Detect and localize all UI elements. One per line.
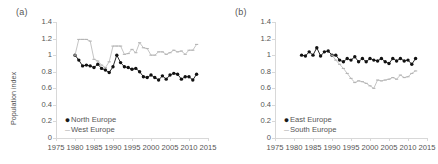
legend-label: South Europe (290, 125, 336, 135)
x-tick (189, 138, 190, 141)
x-tick (151, 138, 152, 141)
data-point (81, 64, 84, 67)
data-point (184, 54, 187, 55)
x-tick-label: 1990 (324, 144, 341, 152)
x-tick (56, 138, 57, 141)
x-tick-label: 2010 (181, 144, 198, 152)
data-point (195, 44, 198, 45)
data-point (123, 54, 126, 55)
data-point (100, 65, 103, 66)
y-tick (53, 88, 56, 89)
data-point (334, 53, 337, 56)
data-point (349, 58, 352, 61)
data-point (157, 51, 160, 52)
y-tick-label: 1.2 (260, 35, 271, 43)
x-tick-label: 2010 (400, 144, 417, 152)
data-point (342, 60, 345, 63)
x-tick (427, 138, 428, 141)
data-point (165, 77, 168, 80)
legend-item-east-europe: ●East Europe (283, 110, 336, 120)
data-point (410, 63, 413, 66)
x-tick-label: 1995 (343, 144, 360, 152)
y-tick-label: 0.6 (41, 84, 52, 92)
data-point (146, 48, 149, 49)
data-point (111, 46, 114, 47)
data-point (191, 78, 194, 81)
y-tick-label: 1.4 (41, 18, 52, 26)
x-tick (113, 138, 114, 141)
data-point (108, 61, 111, 62)
data-point (361, 57, 364, 60)
data-point (168, 73, 171, 76)
data-point (180, 77, 183, 80)
legend-item-south-europe: –South Europe (283, 120, 336, 130)
legend-label: West Europe (71, 125, 115, 135)
data-point (85, 39, 88, 40)
data-point (308, 50, 311, 53)
data-point (89, 64, 92, 67)
data-point (380, 80, 383, 81)
data-point (368, 85, 371, 86)
data-point (304, 54, 307, 57)
data-point (161, 51, 164, 52)
data-point (376, 59, 379, 62)
data-point (410, 73, 413, 74)
data-point (327, 49, 330, 52)
data-point (168, 52, 171, 53)
chart-panel-a: (a) Population index 00.20.40.60.811.21.… (0, 0, 219, 164)
y-tick-label: 1.2 (41, 35, 52, 43)
x-tick-label: 1975 (267, 144, 284, 152)
x-tick-label: 2000 (143, 144, 160, 152)
data-point (134, 67, 137, 70)
data-point (323, 50, 326, 53)
x-tick-label: 1985 (305, 144, 322, 152)
data-point (119, 46, 122, 47)
data-point (115, 53, 118, 56)
y-tick-label: 0.2 (41, 118, 52, 126)
data-point (406, 58, 409, 61)
y-tick-label: 0.4 (260, 101, 271, 109)
x-tick (332, 138, 333, 141)
data-point (349, 78, 352, 79)
x-tick-label: 2005 (381, 144, 398, 152)
data-point (157, 78, 160, 81)
chart-panel-b: (b) 00.20.40.60.811.21.4 197519801985199… (219, 0, 438, 164)
data-point (300, 53, 303, 56)
data-point (108, 71, 111, 74)
x-tick (170, 138, 171, 141)
data-point (187, 75, 190, 78)
data-point (372, 58, 375, 61)
x-tick-label: 2005 (162, 144, 179, 152)
data-point (165, 54, 168, 55)
x-tick (351, 138, 352, 141)
y-tick-label: 1 (48, 51, 52, 59)
data-point (403, 59, 406, 62)
data-point (330, 55, 333, 56)
data-point (85, 63, 88, 66)
y-tick-label: 1 (267, 51, 271, 59)
data-point (153, 55, 156, 56)
y-tick (272, 121, 275, 122)
data-point (357, 80, 360, 81)
legend-a: ●North Europe –West Europe (64, 110, 116, 130)
data-point (176, 73, 179, 76)
data-point (77, 39, 80, 40)
data-point (73, 55, 76, 56)
data-point (149, 73, 152, 76)
x-tick (389, 138, 390, 141)
data-point (357, 60, 360, 63)
y-tick-label: 0 (267, 134, 271, 142)
data-point (338, 64, 341, 65)
data-point (92, 59, 95, 60)
x-tick (208, 138, 209, 141)
data-point (100, 67, 103, 70)
data-point (414, 57, 417, 60)
data-point (372, 88, 375, 89)
data-point (319, 54, 322, 57)
data-point (399, 57, 402, 60)
legend-b: ●East Europe –South Europe (283, 110, 336, 130)
data-point (365, 83, 368, 84)
data-point (130, 49, 133, 50)
data-point (115, 46, 118, 47)
data-point (89, 41, 92, 42)
